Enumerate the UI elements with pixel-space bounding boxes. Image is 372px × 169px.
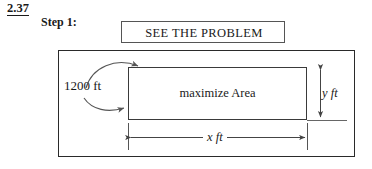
problem-number: 2.37 (7, 1, 29, 16)
title-box: SEE THE PROBLEM (121, 21, 285, 43)
figure-canvas: 2.37 Step 1: SEE THE PROBLEM maximize Ar… (0, 0, 372, 169)
height-dimension-label: y ft (322, 86, 338, 100)
area-label: maximize Area (128, 67, 307, 120)
width-dimension-label: x ft (203, 130, 227, 144)
step-label: Step 1: (41, 15, 77, 29)
fence-length-label: 1200 ft (64, 79, 101, 93)
title-text: SEE THE PROBLEM (122, 22, 286, 44)
